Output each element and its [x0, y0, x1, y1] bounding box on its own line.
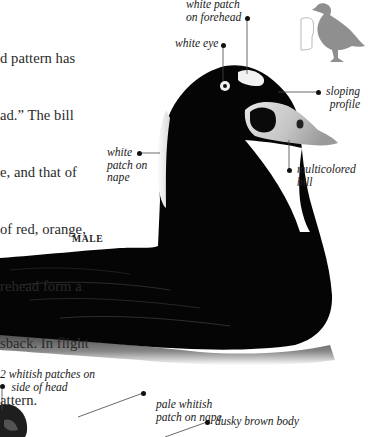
callout-dot [245, 16, 250, 21]
male-label: MALE [72, 233, 103, 244]
callout-dot [0, 384, 5, 389]
text-line: sback. In flight [0, 334, 89, 353]
caption-whitish-patches-side-head: 2 whitish patches on side of head [0, 369, 95, 394]
callout-dot [137, 151, 142, 156]
caption-white-patch-forehead: white patch on forehead [186, 0, 241, 24]
callout-dot [205, 420, 210, 425]
caption-pale-whitish-patch-nape: pale whitish patch on nape [156, 399, 222, 424]
callout-dot [221, 43, 226, 48]
text-line: ad.” The bill [0, 106, 89, 125]
callout-dot [316, 90, 321, 95]
text-line: d pattern has [0, 49, 89, 68]
caption-dusky-brown-body: dusky brown body [215, 416, 299, 429]
caption-multicolored-bill: multicolored bill [297, 164, 356, 189]
callout-dot [287, 168, 292, 173]
callout-dot [141, 391, 146, 396]
duck-silhouette-with-book-icon [301, 3, 365, 62]
caption-sloping-profile: sloping profile [326, 86, 360, 111]
text-line: rehead form a [0, 277, 89, 296]
text-line: e, and that of [0, 163, 89, 182]
caption-white-eye: white eye [175, 38, 218, 51]
